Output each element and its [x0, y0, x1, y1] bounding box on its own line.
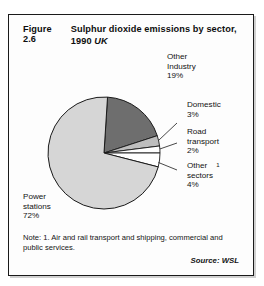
figure-source: Source: WSL [190, 256, 239, 265]
pie-label-other-industry-value: 19% [167, 71, 196, 81]
pie-label-other-sectors-line2: sectors [187, 171, 220, 181]
pie-label-power-stations: Power stations 72% [23, 192, 51, 221]
leader-line-domestic [158, 123, 177, 141]
pie-label-road-transport: Road transport 2% [187, 127, 219, 156]
pie-label-road-transport-value: 2% [187, 146, 219, 156]
pie-label-road-transport-line1: Road [187, 127, 219, 137]
footnote-marker-1: 1 [216, 161, 219, 171]
pie-label-other-industry: Other Industry 19% [167, 52, 196, 81]
pie-label-power-stations-line2: stations [23, 202, 51, 212]
pie-label-domestic-value: 3% [187, 110, 221, 120]
leader-lines [158, 123, 177, 170]
pie-label-other-industry-line1: Other [167, 52, 196, 62]
pie-label-road-transport-line2: transport [187, 137, 219, 147]
pie-label-domestic: Domestic 3% [187, 100, 221, 119]
figure-note: Note: 1. Air and rail transport and ship… [23, 233, 237, 253]
pie-label-other-sectors-line1: Other [187, 161, 207, 171]
leader-line-other-sectors [159, 163, 178, 171]
pie-label-other-sectors: Other 1 sectors 4% [187, 161, 220, 190]
pie-slices [48, 97, 160, 209]
pie-label-other-sectors-value: 4% [187, 180, 220, 190]
pie-label-other-sectors-line1-row: Other 1 [187, 161, 220, 171]
figure-panel: Figure 2.6 Sulphur dioxide emissions by … [8, 14, 254, 276]
leader-line-road-transport [160, 143, 177, 149]
pie-label-power-stations-value: 72% [23, 211, 51, 221]
pie-label-other-industry-line2: Industry [167, 62, 196, 72]
pie-label-power-stations-line1: Power [23, 192, 51, 202]
pie-label-domestic-line1: Domestic [187, 100, 221, 110]
